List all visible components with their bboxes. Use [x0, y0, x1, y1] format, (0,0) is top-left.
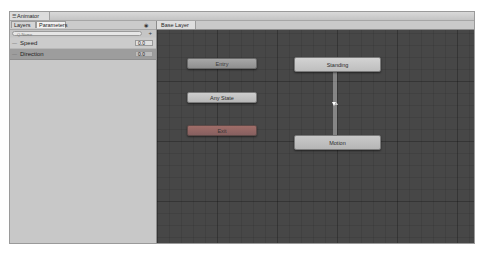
parameter-row-speed[interactable]: — Speed 0.0: [10, 38, 156, 49]
state-node-any-state[interactable]: Any State: [187, 92, 257, 103]
state-node-entry[interactable]: Entry: [187, 58, 257, 69]
window-title: Animator: [17, 13, 39, 19]
animator-window: ☰ Animator Layers Parameters ◉ Q-Name + …: [9, 11, 475, 244]
parameter-name: Speed: [20, 38, 37, 48]
parameter-name: Direction: [20, 49, 44, 59]
drag-handle-icon[interactable]: —: [12, 38, 17, 48]
plus-dropdown-icon[interactable]: +: [148, 30, 152, 37]
state-node-motion[interactable]: Motion: [294, 135, 381, 150]
animator-icon: ☰: [12, 13, 16, 19]
drag-handle-icon[interactable]: —: [12, 49, 17, 59]
tab-layers[interactable]: Layers: [11, 21, 36, 28]
panel-tabs: Layers Parameters ◉: [10, 21, 156, 30]
parameter-row-direction[interactable]: — Direction 0.0: [10, 49, 156, 60]
breadcrumb-base-layer[interactable]: Base Layer: [157, 21, 196, 29]
state-node-standing[interactable]: Standing: [294, 57, 381, 72]
tab-parameters[interactable]: Parameters: [36, 21, 66, 28]
state-node-exit[interactable]: Exit: [187, 125, 257, 136]
parameter-value-field[interactable]: 0.0: [135, 40, 153, 46]
window-titlebar: ☰ Animator: [10, 12, 474, 21]
animator-tab[interactable]: ☰ Animator: [10, 12, 50, 20]
state-machine-graph[interactable]: Base Layer Entry Any State Exit Standing…: [157, 21, 474, 243]
parameter-value-field[interactable]: 0.0: [135, 51, 153, 57]
parameter-search-input[interactable]: Q-Name: [12, 31, 142, 36]
search-row: Q-Name +: [10, 30, 156, 37]
parameters-panel: Layers Parameters ◉ Q-Name + — Speed 0.0…: [10, 21, 157, 243]
transition-arrows[interactable]: [332, 72, 338, 135]
eye-icon[interactable]: ◉: [144, 22, 148, 28]
breadcrumb-bar: Base Layer: [157, 21, 474, 30]
